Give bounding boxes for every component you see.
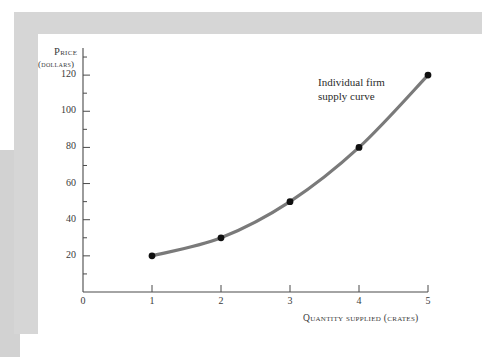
y-tick-label: 100 <box>50 104 76 115</box>
data-point <box>356 144 363 151</box>
x-tick-label: 5 <box>418 295 438 306</box>
axes-group <box>83 48 428 292</box>
x-tick-label: 3 <box>280 295 300 306</box>
supply-curve-line <box>152 75 428 256</box>
data-point <box>149 252 156 259</box>
figure-page: Price (dollars) Quantity supplied (crate… <box>0 0 496 357</box>
data-point <box>218 234 225 241</box>
y-tick-label: 80 <box>50 140 76 151</box>
x-tick-label: 2 <box>211 295 231 306</box>
x-tick-label: 0 <box>73 295 93 306</box>
data-point <box>287 198 294 205</box>
x-tick-label: 1 <box>142 295 162 306</box>
y-tick-label: 60 <box>50 177 76 188</box>
y-tick-label: 120 <box>50 68 76 79</box>
data-point-markers <box>149 72 432 260</box>
y-tick-label: 40 <box>50 213 76 224</box>
axis-ticks-group <box>83 57 428 292</box>
y-tick-label: 20 <box>50 249 76 260</box>
data-point <box>425 72 432 79</box>
x-tick-label: 4 <box>349 295 369 306</box>
